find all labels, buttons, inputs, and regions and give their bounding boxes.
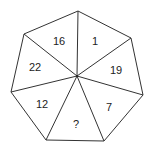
segment-label-right-upper: 19 xyxy=(110,64,122,76)
segment-label-left-lower: 12 xyxy=(36,98,48,110)
segment-label-right-lower: 7 xyxy=(106,101,112,113)
segment-label-top-left: 16 xyxy=(53,35,65,47)
heptagon-puzzle: 1 19 7 ? 12 22 16 xyxy=(0,0,151,149)
center-point xyxy=(76,75,78,77)
segment-label-top-right: 1 xyxy=(92,35,98,47)
segment-label-bottom-unknown: ? xyxy=(73,118,79,130)
segment-label-left-upper: 22 xyxy=(29,61,41,73)
